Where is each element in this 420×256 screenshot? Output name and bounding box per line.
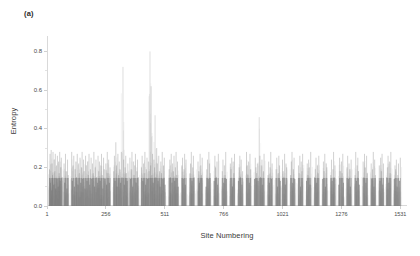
- y-tick-label: 0.6: [34, 86, 42, 95]
- x-tick-mark: [282, 206, 283, 209]
- x-tick-mark: [400, 206, 401, 209]
- x-tick-label: 766: [219, 210, 228, 218]
- x-tick-mark: [47, 206, 48, 209]
- y-axis-title: Entropy: [8, 36, 20, 206]
- x-tick-mark: [341, 206, 342, 209]
- plot-area: [47, 36, 407, 206]
- x-tick-label: 256: [101, 210, 110, 218]
- spike-canvas: [47, 36, 407, 206]
- x-axis-title: Site Numbering: [47, 231, 407, 240]
- entropy-figure: (a) Entropy 0.00.20.40.60.8 125651176610…: [0, 0, 420, 256]
- y-tick-label: 0.2: [34, 163, 42, 172]
- x-tick-label: 1021: [276, 210, 288, 218]
- x-tick-label: 511: [160, 210, 169, 218]
- y-tick-label: 0.0: [34, 202, 42, 211]
- y-tick-label: 0.4: [34, 124, 42, 133]
- x-tick-label: 1: [45, 210, 48, 218]
- panel-label: (a): [24, 10, 34, 18]
- x-tick-mark: [223, 206, 224, 209]
- entropy-spikes: [47, 36, 407, 206]
- x-tick-mark: [105, 206, 106, 209]
- x-tick-label: 1276: [335, 210, 347, 218]
- x-tick-mark: [164, 206, 165, 209]
- y-tick-label: 0.8: [34, 47, 42, 56]
- x-tick-label: 1531: [394, 210, 406, 218]
